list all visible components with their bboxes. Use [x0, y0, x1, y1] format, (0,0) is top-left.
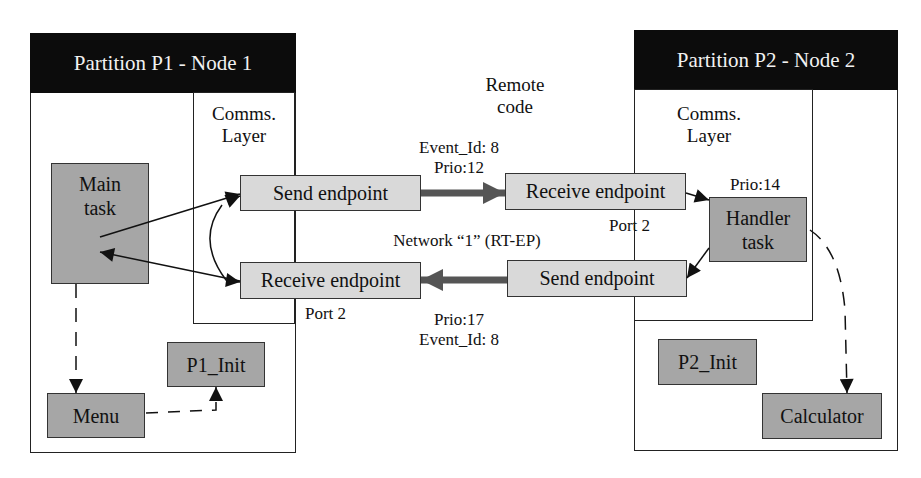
receive-to-handler-arrow — [686, 193, 709, 200]
main-to-send-arrow — [100, 194, 240, 237]
handler-to-calculator-dashed-arrow — [810, 230, 847, 393]
receive-to-main-arrow — [100, 252, 240, 281]
connector-layer — [0, 0, 921, 478]
handler-to-send-arrow — [687, 248, 709, 278]
comms-loop-arrow — [210, 205, 240, 282]
menu-to-init-dashed-arrow — [146, 387, 216, 413]
